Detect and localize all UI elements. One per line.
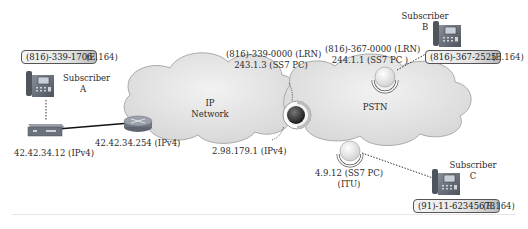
bottom-divider	[12, 214, 516, 215]
switch-c-std: (ITU)	[314, 179, 384, 189]
subscriber-a-number-type: (E.164)	[86, 52, 118, 62]
subscriber-a-label: Subscriber	[63, 73, 103, 83]
subscriber-b-label: Subscriber	[400, 11, 450, 21]
router-icon	[124, 116, 152, 132]
network-diagram-canvas	[0, 0, 528, 229]
subscriber-a-letter: A	[63, 84, 103, 94]
subscriber-b-letter: B	[400, 22, 450, 32]
pstn-label: PSTN	[355, 102, 395, 112]
softswitch-pc: 243.1.3 (SS7 PC)	[226, 60, 316, 70]
phone-a-icon	[26, 71, 54, 97]
subscriber-c-label: Subscriber	[448, 160, 498, 170]
softswitch-ip: 2.98.179.1 (IPv4)	[212, 146, 287, 156]
subscriber-c-number-type: (E.164)	[483, 201, 515, 211]
switch-b-lrn: (816)-367-0000 (LRN)	[325, 44, 415, 54]
gateway-device-icon	[28, 124, 65, 136]
router-address: 42.42.34.254 (IPv4)	[95, 138, 180, 148]
ip-network-label-line2: Network	[180, 109, 240, 119]
subscriber-b-number: (816)-367-2525	[425, 50, 501, 64]
subscriber-c-letter: C	[448, 171, 498, 181]
softswitch-node-icon	[283, 101, 311, 129]
switch-b-pc: 244.1.1 (SS7 PC )	[325, 55, 415, 65]
switch-c-node-icon	[338, 141, 362, 166]
ip-network-label-line1: IP	[180, 98, 240, 108]
switch-c-pc: 4.9.12 (SS7 PC)	[314, 168, 384, 178]
gateway-address: 42.42.34.12 (IPv4)	[14, 148, 94, 158]
subscriber-b-number-type: (E.164)	[492, 52, 524, 62]
softswitch-lrn: (816)-339-0000 (LRN)	[226, 49, 316, 59]
